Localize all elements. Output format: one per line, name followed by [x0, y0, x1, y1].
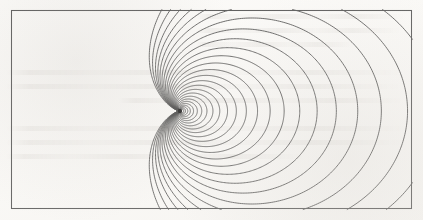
contour-curve — [342, 10, 408, 210]
contour-curve — [167, 39, 317, 184]
contour-curve — [387, 183, 413, 210]
contour-curve — [164, 18, 358, 204]
contour-curve — [293, 10, 382, 210]
contour-figure — [0, 0, 423, 220]
contour-curve — [166, 29, 337, 193]
contour-curve-group — [149, 10, 412, 210]
plot-frame-border — [12, 11, 412, 209]
contour-curve — [383, 10, 413, 40]
singularity-point — [178, 109, 182, 113]
contour-plot-canvas — [0, 0, 423, 220]
contour-curve — [172, 70, 257, 153]
